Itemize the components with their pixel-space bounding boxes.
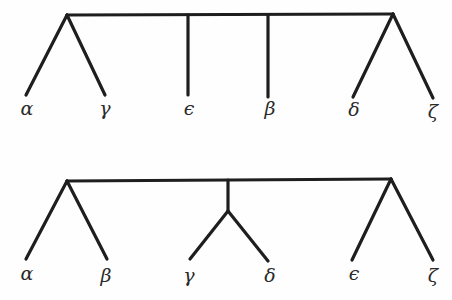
bottom-edge-delta (228, 211, 268, 261)
top-edge-zeta (393, 14, 433, 98)
top-leaf-epsilon: ϵ (184, 97, 195, 119)
top-edge-delta (353, 14, 393, 97)
bottom-leaf-gamma: γ (183, 264, 195, 286)
bottom-leaf-epsilon: ϵ (349, 262, 360, 284)
top-tree: α γ ϵ β δ ζ (21, 14, 440, 122)
top-leaf-zeta: ζ (428, 100, 440, 122)
bottom-leaf-beta: β (100, 264, 112, 286)
top-leaf-delta: δ (348, 98, 359, 120)
bottom-edge-alpha (26, 181, 67, 259)
bottom-leaf-delta: δ (264, 264, 275, 286)
bottom-leaf-alpha: α (21, 262, 34, 284)
phylogenetic-tree-diagram: α γ ϵ β δ ζ α β γ δ ϵ ζ (0, 0, 452, 300)
top-leaf-beta: β (264, 97, 276, 119)
bottom-tree: α β γ δ ϵ ζ (21, 179, 440, 286)
top-edge-alpha (26, 15, 67, 95)
bottom-edge-zeta (391, 179, 433, 260)
top-leaf-alpha: α (21, 97, 34, 119)
bottom-edge-gamma (190, 211, 228, 259)
top-root-bar (67, 14, 393, 15)
bottom-edge-beta (67, 181, 107, 259)
bottom-leaf-zeta: ζ (428, 264, 440, 286)
tree-diagram-svg: α γ ϵ β δ ζ α β γ δ ϵ ζ (0, 0, 452, 300)
top-leaf-gamma: γ (99, 97, 111, 119)
top-edge-gamma (67, 15, 105, 95)
bottom-edge-epsilon (352, 179, 391, 260)
